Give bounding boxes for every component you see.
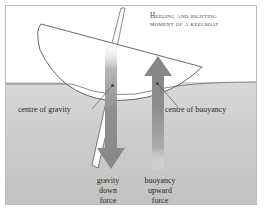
- label-centre-of-gravity: centre of gravity: [18, 106, 71, 115]
- buoyancy-force-line-1: buoyancy: [132, 176, 188, 186]
- figure-title-line-1: Heeling and righting: [150, 12, 254, 20]
- label-gravity-force: gravity down force: [84, 176, 132, 205]
- buoyancy-force-line-2: upward: [132, 186, 188, 196]
- label-centre-of-buoyancy: centre of buoyancy: [165, 106, 226, 115]
- figure-title: Heeling and righting moment of a keelboa…: [150, 12, 254, 28]
- gravity-force-line-1: gravity: [84, 176, 132, 186]
- label-buoyancy-force: buoyancy upward force: [132, 176, 188, 205]
- buoyancy-force-line-3: force: [132, 196, 188, 206]
- diagram-canvas: Heeling and righting moment of a keelboa…: [0, 0, 264, 212]
- figure-title-line-2: moment of a keelboat: [150, 20, 254, 28]
- gravity-force-line-2: down: [84, 186, 132, 196]
- gravity-force-line-3: force: [84, 196, 132, 206]
- diagram-frame: Heeling and righting moment of a keelboa…: [5, 5, 257, 205]
